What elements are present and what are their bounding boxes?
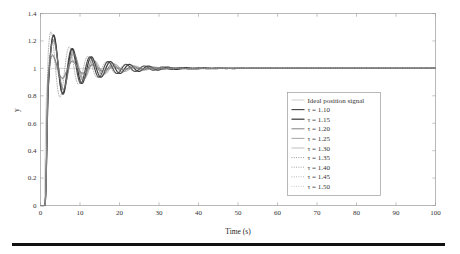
- y-tick-label: 0.8: [28, 92, 37, 100]
- y-tick-label: 0.2: [28, 174, 37, 182]
- x-tick-label: 30: [156, 209, 164, 217]
- legend-item-label[interactable]: τ = 1.45: [308, 173, 331, 181]
- x-tick-label: 80: [353, 209, 361, 217]
- bottom-rule: [12, 243, 445, 246]
- y-tick-label: 0: [33, 202, 37, 210]
- legend-item-label[interactable]: τ = 1.10: [308, 106, 331, 114]
- x-axis-title: Time (s): [225, 227, 251, 236]
- x-tick-label: 10: [77, 209, 85, 217]
- y-tick-label: 0.6: [28, 120, 37, 128]
- x-tick-label: 50: [235, 209, 243, 217]
- y-axis-tick-labels: 00.20.40.60.811.21.4: [28, 10, 37, 210]
- legend-item-label[interactable]: Ideal position signal: [308, 97, 365, 105]
- legend-item-label[interactable]: τ = 1.25: [308, 135, 331, 143]
- legend-background: [288, 93, 381, 196]
- chart-legend[interactable]: Ideal position signalτ = 1.10τ = 1.15τ =…: [288, 93, 381, 196]
- legend-item-label[interactable]: τ = 1.50: [308, 183, 331, 191]
- x-tick-label: 60: [274, 209, 282, 217]
- x-tick-label: 0: [39, 209, 43, 217]
- figure-container: 00.20.40.60.811.21.4 0102030405060708090…: [0, 0, 460, 254]
- y-axis-title: y: [12, 108, 21, 112]
- legend-item-label[interactable]: τ = 1.35: [308, 154, 331, 162]
- x-tick-label: 70: [314, 209, 322, 217]
- x-axis-tick-labels: 0102030405060708090100: [39, 209, 442, 217]
- step-response-chart: 00.20.40.60.811.21.4 0102030405060708090…: [0, 0, 460, 254]
- y-tick-label: 1: [33, 65, 37, 73]
- x-tick-label: 40: [195, 209, 203, 217]
- y-tick-label: 1.2: [28, 37, 37, 45]
- x-tick-label: 20: [116, 209, 124, 217]
- x-tick-label: 100: [430, 209, 441, 217]
- legend-item-label[interactable]: τ = 1.40: [308, 164, 331, 172]
- y-tick-label: 1.4: [28, 10, 37, 18]
- legend-item-label[interactable]: τ = 1.30: [308, 145, 331, 153]
- legend-item-label[interactable]: τ = 1.20: [308, 125, 331, 133]
- y-tick-label: 0.4: [28, 147, 37, 155]
- x-tick-label: 90: [393, 209, 401, 217]
- legend-item-label[interactable]: τ = 1.15: [308, 116, 331, 124]
